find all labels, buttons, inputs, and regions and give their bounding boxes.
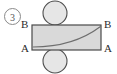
top-roller-circle	[43, 1, 67, 25]
vertex-label-a-bottom-right: A	[104, 43, 112, 54]
figure-container: 3 B B A A	[0, 0, 117, 74]
vertex-label-b-top-right: B	[104, 19, 111, 30]
vertex-label-a-bottom-left: A	[21, 43, 29, 54]
figure-index-badge: 3	[4, 8, 21, 25]
vertex-label-b-top-left: B	[21, 19, 28, 30]
bottom-roller-circle	[43, 49, 67, 73]
